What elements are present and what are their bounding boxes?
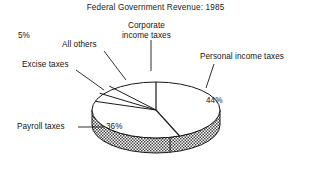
label-corporate-income-taxes: Corporate income taxes	[122, 21, 171, 40]
leader-line-personal	[206, 64, 214, 88]
pie-chart-figure: Federal Government Revenue: 1985	[0, 0, 311, 184]
leader-line-all-others	[104, 51, 126, 80]
label-personal-income-taxes: Personal income taxes	[200, 52, 284, 62]
label-excise-taxes: Excise taxes	[22, 60, 69, 70]
label-payroll-taxes: Payroll taxes	[17, 122, 65, 132]
label-personal-percent: 44%	[206, 96, 223, 106]
label-corporate-line2: income taxes	[122, 31, 171, 41]
label-payroll-percent: 36%	[106, 122, 123, 132]
label-others-percent: 5%	[18, 31, 30, 41]
label-all-others: All others	[62, 40, 97, 50]
leader-line-excise	[76, 70, 104, 90]
label-corporate-line1: Corporate	[122, 21, 171, 31]
